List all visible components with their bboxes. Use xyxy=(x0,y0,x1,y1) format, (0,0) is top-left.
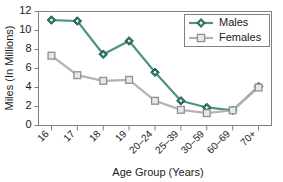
x-tick-label: 16 xyxy=(35,128,51,144)
y-tick-label: 8 xyxy=(25,42,31,54)
data-point-females xyxy=(48,52,55,59)
data-point-females xyxy=(74,72,81,79)
data-point-males xyxy=(47,16,56,25)
legend-marker-females-icon xyxy=(197,34,204,41)
x-tick-label: 60–69 xyxy=(205,128,233,156)
y-axis: 024681012 xyxy=(19,4,38,130)
y-tick-label: 6 xyxy=(25,61,31,73)
x-tick-label: 17 xyxy=(61,128,77,144)
x-axis-title: Age Group (Years) xyxy=(112,166,203,178)
data-point-females xyxy=(126,77,133,84)
y-tick-label: 10 xyxy=(19,23,31,35)
data-point-females xyxy=(152,97,159,104)
data-point-females xyxy=(255,84,262,91)
data-point-females xyxy=(203,110,210,117)
line-chart: 024681012 1617181920–2425–3930–5960–6970… xyxy=(0,0,283,182)
data-point-females xyxy=(100,77,107,84)
chart-legend: Males Females xyxy=(185,15,270,47)
y-tick-label: 0 xyxy=(25,118,31,130)
x-tick-label: 25–39 xyxy=(153,128,181,156)
chart-canvas: 024681012 1617181920–2425–3930–5960–6970… xyxy=(0,0,283,182)
y-tick-label: 4 xyxy=(25,80,31,92)
x-tick-label: 30–59 xyxy=(179,128,207,156)
x-tick-label: 70+ xyxy=(238,128,258,148)
x-tick-label: 18 xyxy=(87,128,103,144)
y-tick-label: 12 xyxy=(19,4,31,16)
data-point-females xyxy=(177,106,184,113)
data-point-females xyxy=(229,107,236,114)
y-tick-label: 2 xyxy=(25,99,31,111)
x-tick-label: 19 xyxy=(113,128,129,144)
legend-label-males: Males xyxy=(219,16,249,28)
y-axis-title: Miles (In Millions) xyxy=(3,26,15,111)
x-axis: 1617181920–2425–3930–5960–6970+ xyxy=(35,126,258,156)
x-tick-label: 20–24 xyxy=(127,128,155,156)
legend-label-females: Females xyxy=(219,31,262,43)
